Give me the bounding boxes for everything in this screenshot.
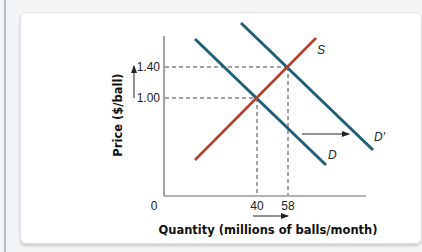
supply-label: S bbox=[317, 43, 325, 57]
x-tick-58: 58 bbox=[281, 199, 295, 213]
y-axis-title: Price ($/ball) bbox=[111, 73, 125, 156]
demand-shifted-label: D′ bbox=[374, 130, 386, 144]
demand-curve-d-prime bbox=[241, 23, 373, 150]
y-tick-1-40: 1.40 bbox=[137, 60, 161, 74]
demand-curve-d bbox=[195, 39, 326, 165]
demand-label: D bbox=[328, 148, 337, 162]
x-axis-title: Quantity (millions of balls/month) bbox=[158, 223, 377, 237]
x-tick-40: 40 bbox=[250, 199, 264, 213]
origin-label: 0 bbox=[151, 199, 158, 213]
y-tick-1-00: 1.00 bbox=[137, 91, 161, 105]
